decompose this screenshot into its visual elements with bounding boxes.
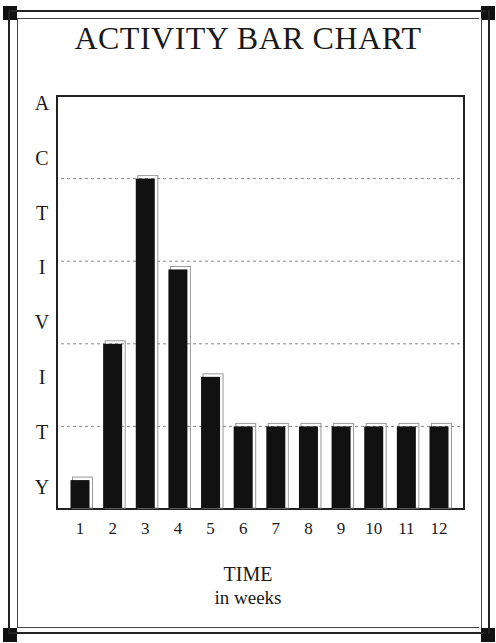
x-tick-label-2: 2	[108, 519, 117, 538]
bar-chart: 123456789101112	[0, 0, 496, 643]
x-tick-label-1: 1	[76, 519, 85, 538]
x-tick-label-8: 8	[304, 519, 313, 538]
bar-week-2	[103, 344, 122, 508]
x-tick-label-10: 10	[365, 519, 382, 538]
bar-week-3	[136, 179, 155, 508]
bar-week-5	[201, 377, 220, 508]
bar-week-9	[332, 426, 351, 508]
bar-week-7	[266, 426, 285, 508]
x-tick-label-11: 11	[398, 519, 414, 538]
x-tick-label-4: 4	[174, 519, 183, 538]
x-axis-sublabel: in weeks	[0, 587, 496, 609]
x-tick-label-12: 12	[431, 519, 448, 538]
bar-week-1	[71, 480, 90, 508]
bar-week-6	[234, 426, 253, 508]
bar-week-10	[364, 426, 383, 508]
x-axis-label: TIME	[0, 563, 496, 586]
x-tick-label-5: 5	[206, 519, 215, 538]
x-tick-label-3: 3	[141, 519, 150, 538]
x-tick-label-6: 6	[239, 519, 248, 538]
x-tick-label-7: 7	[272, 519, 281, 538]
x-tick-label-9: 9	[337, 519, 346, 538]
bar-week-11	[397, 426, 416, 508]
bar-week-12	[430, 426, 449, 508]
bar-week-4	[168, 269, 187, 508]
bar-week-8	[299, 426, 318, 508]
